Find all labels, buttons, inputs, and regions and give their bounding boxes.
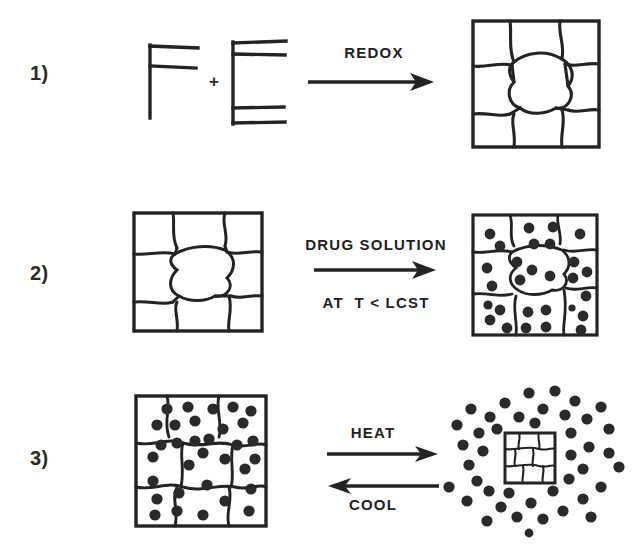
plus-sign-1: + (209, 72, 219, 92)
reaction-label-redox: REDOX (314, 44, 434, 61)
polymer-backbone-f-icon (146, 42, 202, 122)
arrow-right-redox-icon (306, 70, 438, 94)
hydrogel-network-loaded-icon-2 (133, 393, 269, 529)
arrow-right-drug-icon (312, 258, 440, 282)
crosslinker-e-icon (228, 38, 290, 128)
reaction-label-lcst: AT T < LCST (276, 294, 476, 311)
collapsed-gel-released-drug-icon (443, 387, 629, 549)
reaction-label-drug-solution: DRUG SOLUTION (276, 236, 476, 253)
hydrogel-network-empty-icon (470, 18, 602, 150)
reaction-label-cool: COOL (318, 496, 428, 513)
reaction-label-heat: HEAT (318, 424, 428, 441)
hydrogel-network-loaded-icon (470, 212, 600, 338)
figure-canvas: 1) + REDOX (0, 0, 639, 554)
hydrogel-network-empty-icon-2 (131, 210, 265, 334)
arrow-reversible-heat-cool-icon (325, 444, 441, 502)
step-number-3: 3) (30, 447, 49, 470)
step-number-1: 1) (30, 62, 49, 85)
step-number-2: 2) (30, 262, 49, 285)
